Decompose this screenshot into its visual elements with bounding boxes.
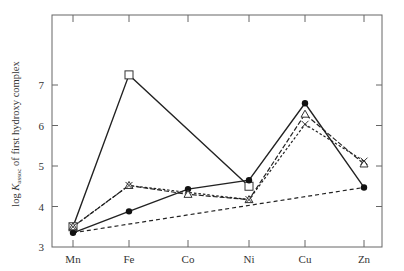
x-tick-label-zn: Zn	[358, 253, 371, 265]
x-tick-label-co: Co	[182, 253, 195, 265]
x-axis: MnFeCoNiCuZn	[65, 15, 370, 265]
series-cross-line	[73, 124, 364, 226]
series-filled-circle-marker	[361, 184, 367, 190]
series-open-square-marker	[245, 182, 253, 190]
x-tick-label-ni: Ni	[244, 253, 255, 265]
y-tick-label: 7	[39, 79, 45, 91]
series-filled-circle-marker	[126, 208, 132, 214]
series-open-square-marker	[125, 71, 133, 79]
series-lines	[73, 75, 364, 233]
y-tick-label: 3	[39, 241, 45, 253]
x-tick-label-cu: Cu	[299, 253, 312, 265]
y-tick-label: 6	[39, 120, 45, 132]
series-filled-circle-line	[73, 103, 364, 233]
y-tick-label: 5	[39, 160, 45, 172]
plot-frame	[52, 15, 382, 247]
x-tick-label-fe: Fe	[124, 253, 135, 265]
series-filled-circle-marker	[302, 100, 308, 106]
chart: 34567 MnFeCoNiCuZn log Kassoc of first h…	[0, 0, 404, 271]
y-axis-label: log Kassoc of first hydroxy complex	[10, 60, 23, 206]
series-markers	[69, 71, 368, 236]
y-tick-label: 4	[39, 201, 45, 213]
series-filled-circle-marker	[70, 230, 76, 236]
series-filled-circle-marker	[246, 177, 252, 183]
x-tick-label-mn: Mn	[65, 253, 81, 265]
series-open-triangle-marker	[301, 110, 309, 117]
series-open-square-line	[73, 75, 249, 227]
series-cross-marker	[302, 121, 309, 128]
